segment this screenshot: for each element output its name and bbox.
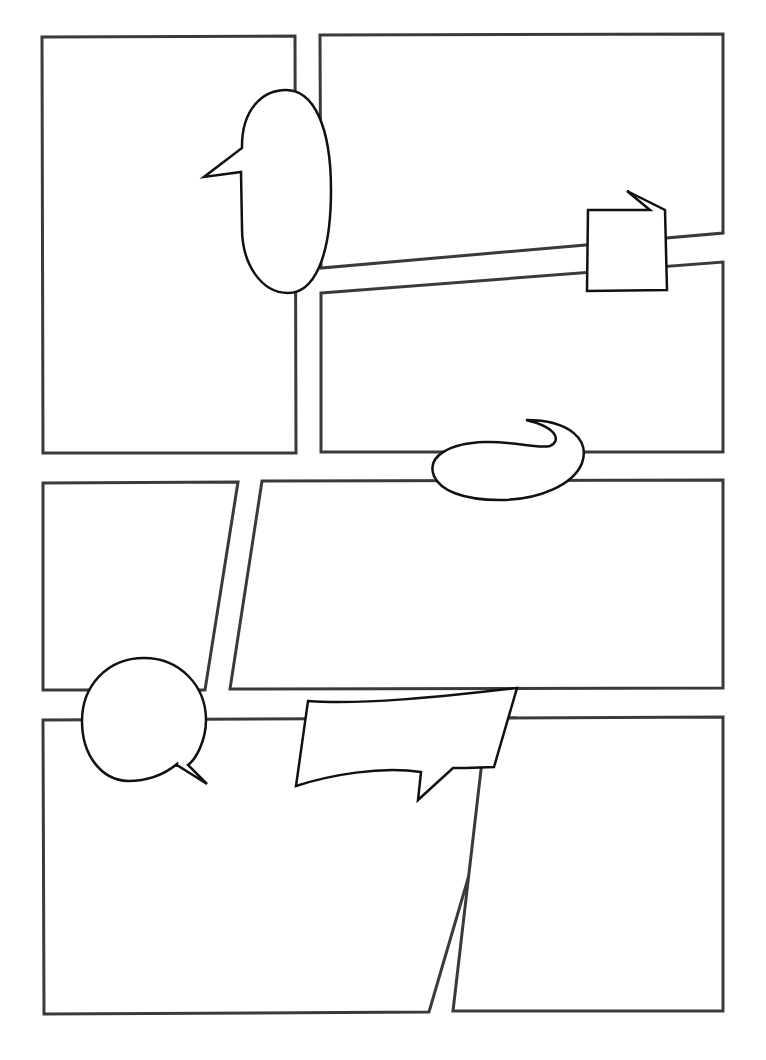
comic-page [0, 0, 766, 1060]
speech-balloon-4 [82, 658, 207, 784]
panel-5 [230, 480, 723, 689]
